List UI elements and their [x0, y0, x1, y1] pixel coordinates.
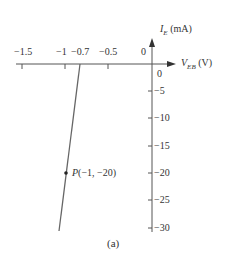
x-tick-label: −1 — [56, 47, 67, 57]
x-tick-label: −0.7 — [71, 47, 89, 57]
x-ticks — [22, 64, 108, 69]
y-axis-arrow-icon — [149, 38, 155, 47]
y-tick-label: −25 — [154, 195, 170, 205]
point-p-marker — [64, 171, 68, 175]
x-axis-label: VEB (V) — [181, 58, 212, 71]
figure-caption: (a) — [107, 238, 119, 249]
point-p-label: P(−1, −20) — [72, 168, 116, 178]
y-tick-label: −10 — [154, 113, 170, 123]
y-ticks — [148, 91, 152, 228]
y-tick-label: 0 — [157, 69, 162, 79]
y-tick-label: −20 — [154, 168, 170, 178]
x-tick-label: 0 — [141, 47, 146, 57]
y-axis-label: IE (mA) — [160, 24, 192, 37]
y-tick-label: −30 — [154, 223, 170, 233]
data-line — [59, 64, 80, 231]
y-tick-label: −15 — [154, 141, 170, 151]
chart-canvas — [0, 0, 229, 265]
x-tick-label: −1.5 — [14, 47, 32, 57]
y-tick-label: −5 — [154, 86, 165, 96]
x-axis-arrow-icon — [167, 61, 176, 67]
x-tick-label: −0.5 — [99, 47, 117, 57]
